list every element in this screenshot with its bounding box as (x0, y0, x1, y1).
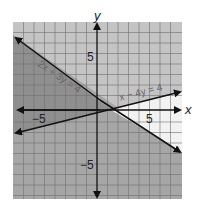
y-axis-label: y (94, 8, 101, 23)
coordinate-plane (0, 0, 203, 213)
tick-y-5: 5 (87, 50, 94, 64)
tick-x-5: 5 (146, 112, 153, 126)
tick-y-neg5: −5 (80, 158, 94, 172)
x-axis-label: x (185, 102, 192, 117)
tick-x-neg5: −5 (32, 112, 46, 126)
